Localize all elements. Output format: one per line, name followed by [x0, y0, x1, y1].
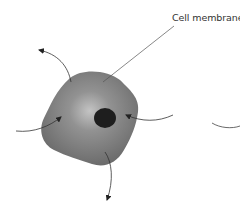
- cell-body: [41, 71, 138, 165]
- cell-membrane-label: Cell membrane: [172, 12, 240, 23]
- cell-diagram: [0, 0, 240, 209]
- nucleus: [94, 108, 116, 128]
- cell-membrane-leader-line: [103, 26, 174, 82]
- arrow-out-top-left: [39, 50, 71, 82]
- partial-curve-right: [212, 123, 240, 128]
